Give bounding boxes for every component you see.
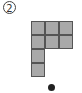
grid-cell (31, 21, 45, 35)
grid-cell (59, 21, 73, 35)
grid-cell (31, 63, 45, 77)
figure-number-label: 2 (3, 1, 16, 14)
grid-cell (31, 35, 45, 49)
grid-cell (45, 21, 59, 35)
grid-cell (59, 35, 73, 49)
grid-cell (45, 35, 59, 49)
grid-cell (31, 49, 45, 63)
dot-marker (48, 84, 55, 91)
